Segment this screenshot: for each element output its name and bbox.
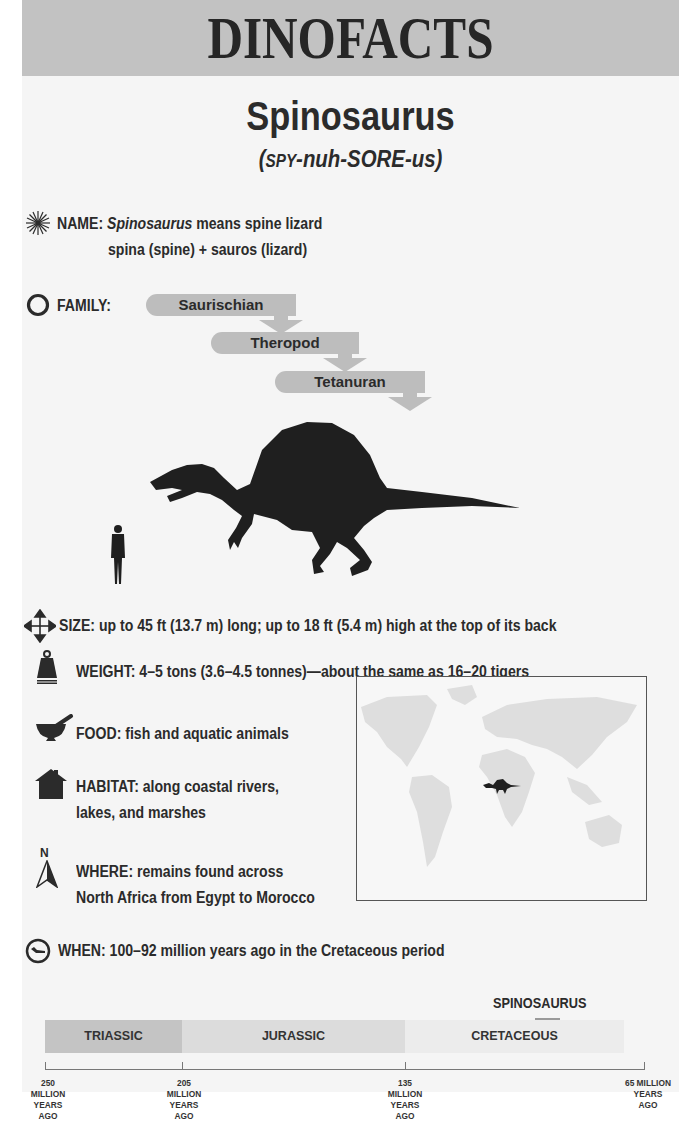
size-text: up to 45 ft (13.7 m) long; up to 18 ft (… — [95, 617, 557, 634]
pron-smallcaps: SPY — [265, 151, 296, 171]
name-fact: NAME: Spinosaurus means spine lizard — [57, 212, 322, 236]
header-banner: DINOFACTS — [22, 0, 679, 76]
tick-line2: YEARS AGO — [380, 1099, 429, 1121]
tick-line2: YEARS AGO — [23, 1099, 72, 1121]
mortar-pestle-icon — [34, 714, 74, 742]
period-triassic: TRIASSIC — [45, 1020, 182, 1053]
starburst-icon — [25, 210, 51, 236]
where-label: WHERE: — [76, 863, 133, 880]
tick-label-65: 65 MILLIONYEARS AGO — [623, 1077, 672, 1110]
family-level-label: Theropod — [250, 334, 319, 351]
pron-rest: -nuh-SORE-us) — [296, 145, 442, 172]
tick-line1: 205 MILLION — [159, 1077, 208, 1099]
food-label: FOOD: — [76, 725, 121, 742]
family-level-label: Saurischian — [178, 296, 263, 313]
axis-tick — [405, 1062, 406, 1070]
where-fact: WHERE: remains found across — [76, 860, 283, 884]
fact-card: DINOFACTS Spinosaurus (SPY-nuh-SORE-us) … — [22, 0, 679, 1092]
habitat-line2: lakes, and marshes — [76, 801, 206, 825]
food-text: fish and aquatic animals — [121, 725, 288, 742]
where-line2: North Africa from Egypt to Morocco — [76, 886, 315, 910]
family-level-tetanuran: Tetanuran — [275, 371, 425, 393]
habitat-label: HABITAT: — [76, 778, 139, 795]
family-label: FAMILY: — [57, 294, 111, 318]
family-level-saurischian: Saurischian — [146, 294, 296, 316]
size-label: SIZE: — [59, 617, 95, 634]
when-label: WHEN: — [58, 942, 106, 959]
geologic-timeline: TRIASSIC JURASSIC CRETACEOUS 250 MILLION… — [22, 1020, 679, 1100]
size-fact: SIZE: up to 45 ft (13.7 m) long; up to 1… — [59, 614, 557, 638]
north-arrow-letter: N — [40, 846, 49, 860]
weight-icon — [36, 650, 58, 684]
period-label: JURASSIC — [262, 1029, 325, 1043]
when-text: 100–92 million years ago in the Cretaceo… — [106, 942, 445, 959]
axis-tick — [644, 1062, 645, 1070]
period-jurassic: JURASSIC — [182, 1020, 405, 1053]
pronunciation: (SPY-nuh-SORE-us) — [71, 145, 629, 173]
family-level-label: Tetanuran — [314, 373, 385, 390]
page-title: DINOFACTS — [207, 0, 493, 76]
period-label: TRIASSIC — [84, 1029, 142, 1043]
when-fact: WHEN: 100–92 million years ago in the Cr… — [58, 939, 445, 963]
where-text: remains found across — [133, 863, 283, 880]
house-icon — [34, 768, 68, 800]
world-map — [356, 676, 647, 901]
family-arrow — [388, 397, 432, 411]
period-cretaceous: CRETACEOUS — [405, 1020, 624, 1053]
timeline-axis — [45, 1069, 645, 1070]
tick-line2: YEARS AGO — [623, 1088, 672, 1110]
human-scale-silhouette — [108, 524, 128, 586]
tick-line1: 250 MILLION — [23, 1077, 72, 1099]
dinosaur-name: Spinosaurus — [68, 94, 633, 139]
tick-line2: YEARS AGO — [159, 1099, 208, 1121]
habitat-text: along coastal rivers, — [139, 778, 279, 795]
tick-label-250: 250 MILLIONYEARS AGO — [23, 1077, 72, 1121]
axis-tick — [182, 1062, 183, 1070]
tick-line1: 135 MILLION — [380, 1077, 429, 1099]
habitat-fact: HABITAT: along coastal rivers, — [76, 775, 279, 799]
name-italic: Spinosaurus — [107, 215, 192, 232]
food-fact: FOOD: fish and aquatic animals — [76, 722, 289, 746]
axis-tick — [45, 1062, 46, 1070]
name-text: means spine lizard — [192, 215, 322, 232]
tick-label-135: 135 MILLIONYEARS AGO — [380, 1077, 429, 1121]
spinosaurus-location-marker — [483, 779, 521, 795]
spinosaurus-marker-label: SPINOSAURUS — [493, 994, 587, 1011]
period-label: CRETACEOUS — [471, 1029, 558, 1043]
north-arrow-icon — [36, 860, 58, 888]
four-way-arrow-icon — [24, 609, 56, 643]
clock-dino-icon — [25, 938, 51, 964]
weight-label: WEIGHT: — [76, 663, 135, 680]
spinosaurus-silhouette — [142, 420, 527, 585]
family-arrow — [323, 358, 367, 372]
family-level-theropod: Theropod — [211, 332, 359, 354]
name-etymology: spina (spine) + sauros (lizard) — [108, 238, 307, 262]
name-label: NAME: — [57, 215, 103, 232]
circle-icon — [26, 293, 50, 317]
tick-label-205: 205 MILLIONYEARS AGO — [159, 1077, 208, 1121]
tick-line1: 65 MILLION — [623, 1077, 672, 1088]
